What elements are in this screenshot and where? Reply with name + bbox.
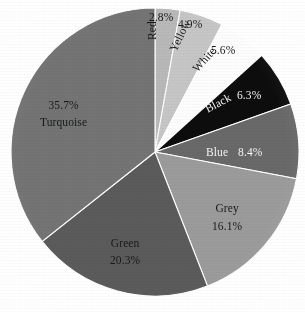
pie-chart-svg (0, 0, 305, 312)
pie-chart: 2.8% Red 4.9% Yellow 5.6% White 6.3% Bla… (0, 0, 305, 312)
pie-slice-group (11, 8, 299, 296)
